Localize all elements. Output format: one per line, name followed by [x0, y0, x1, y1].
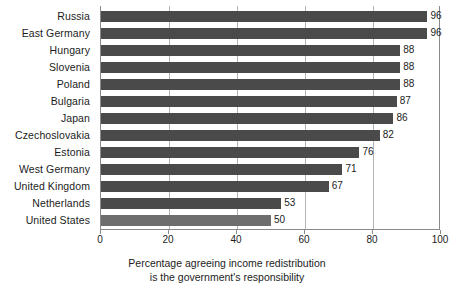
bar-value-label: 71 — [342, 161, 356, 178]
bar — [101, 11, 427, 22]
bar — [101, 164, 342, 175]
bar-row: 88 — [101, 76, 439, 93]
bar-value-label: 87 — [397, 93, 411, 110]
bar-value-label: 53 — [281, 195, 295, 212]
category-label: Poland — [57, 76, 90, 93]
category-label: United States — [26, 212, 90, 229]
caption-line-2: is the government's responsibility — [0, 270, 454, 284]
bar-row: 96 — [101, 8, 439, 25]
x-tick-label: 80 — [366, 234, 377, 245]
bar-row: 71 — [101, 161, 439, 178]
bar-row: 87 — [101, 93, 439, 110]
category-label: West Germany — [19, 161, 90, 178]
bar-value-label: 88 — [400, 59, 414, 76]
bar — [101, 113, 393, 124]
bar-row: 88 — [101, 59, 439, 76]
category-label: Netherlands — [32, 195, 90, 212]
bar-value-label: 50 — [271, 212, 285, 229]
bar — [101, 28, 427, 39]
bar-value-label: 88 — [400, 42, 414, 59]
bar-value-label: 96 — [427, 25, 441, 42]
bar-row: 50 — [101, 212, 439, 229]
x-tick-label: 40 — [230, 234, 241, 245]
bar-value-label: 82 — [380, 127, 394, 144]
bar — [101, 181, 329, 192]
plot-area: 96968888888786827671675350 — [100, 6, 440, 230]
x-tick-label: 60 — [298, 234, 309, 245]
bar — [101, 45, 400, 56]
bar-row: 86 — [101, 110, 439, 127]
category-label: Japan — [61, 110, 90, 127]
bar — [101, 198, 281, 209]
bar-row: 96 — [101, 25, 439, 42]
bar — [101, 62, 400, 73]
bar — [101, 215, 271, 226]
bar-value-label: 76 — [359, 144, 373, 161]
bar-value-label: 96 — [427, 8, 441, 25]
category-label: Bulgaria — [51, 93, 90, 110]
category-label: Russia — [57, 8, 90, 25]
bar-value-label: 86 — [393, 110, 407, 127]
bar — [101, 79, 400, 90]
bar-row: 82 — [101, 127, 439, 144]
bar-chart-figure: RussiaEast GermanyHungarySloveniaPolandB… — [0, 0, 454, 287]
bars-container: 96968888888786827671675350 — [101, 6, 439, 229]
chart-caption: Percentage agreeing income redistributio… — [0, 256, 454, 284]
category-label: Slovenia — [49, 59, 90, 76]
category-label: Estonia — [54, 144, 90, 161]
category-axis-labels: RussiaEast GermanyHungarySloveniaPolandB… — [0, 8, 94, 230]
x-tick-label: 20 — [162, 234, 173, 245]
bar-row: 67 — [101, 178, 439, 195]
bar-value-label: 67 — [329, 178, 343, 195]
bar-row: 88 — [101, 42, 439, 59]
bar-value-label: 88 — [400, 76, 414, 93]
category-label: East Germany — [22, 25, 90, 42]
bar-row: 76 — [101, 144, 439, 161]
x-tick-label: 0 — [97, 234, 103, 245]
bar — [101, 130, 380, 141]
x-tick-label: 100 — [432, 234, 449, 245]
bar — [101, 147, 359, 158]
bar-row: 53 — [101, 195, 439, 212]
category-label: Hungary — [50, 42, 90, 59]
category-label: Czechoslovakia — [15, 127, 90, 144]
category-label: United Kingdom — [14, 178, 90, 195]
bar — [101, 96, 397, 107]
caption-line-1: Percentage agreeing income redistributio… — [0, 256, 454, 270]
plot-wrapper: RussiaEast GermanyHungarySloveniaPolandB… — [0, 0, 454, 240]
x-axis: 020406080100 — [100, 230, 440, 248]
